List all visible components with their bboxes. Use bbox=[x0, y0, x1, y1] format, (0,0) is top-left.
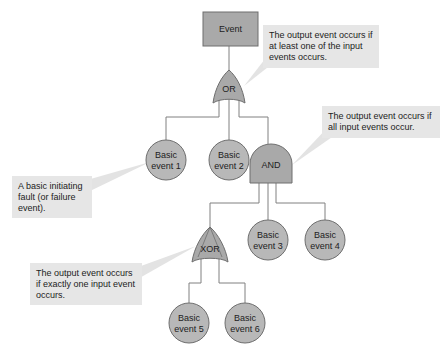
svg-text:Basic: Basic bbox=[257, 230, 280, 240]
basic-event-6: Basic event 6 bbox=[225, 303, 265, 343]
xor-gate-label: XOR bbox=[200, 244, 220, 254]
basic-event-3: Basic event 3 bbox=[248, 220, 288, 260]
svg-text:event 3: event 3 bbox=[253, 241, 283, 251]
svg-text:event 6: event 6 bbox=[230, 324, 260, 334]
svg-text:Basic: Basic bbox=[314, 230, 337, 240]
svg-text:event 2: event 2 bbox=[214, 161, 244, 171]
xor-callout: The output event occurs if exactly one i… bbox=[30, 263, 142, 305]
svg-text:Basic: Basic bbox=[218, 150, 241, 160]
top-event-label: Event bbox=[219, 24, 243, 34]
or-callout: The output event occurs if at least one … bbox=[263, 25, 379, 68]
svg-text:event 1: event 1 bbox=[151, 161, 181, 171]
or-gate: OR bbox=[213, 70, 245, 103]
top-event-box: Event bbox=[203, 12, 258, 46]
svg-text:event 4: event 4 bbox=[310, 241, 340, 251]
svg-text:Basic: Basic bbox=[178, 313, 201, 323]
and-gate: AND bbox=[250, 144, 292, 183]
xor-gate: XOR bbox=[192, 227, 228, 262]
basic-event-4: Basic event 4 bbox=[305, 220, 345, 260]
basic-event-2: Basic event 2 bbox=[209, 140, 249, 180]
and-gate-label: AND bbox=[261, 160, 281, 170]
svg-text:Basic: Basic bbox=[155, 150, 178, 160]
basic-event-5: Basic event 5 bbox=[169, 303, 209, 343]
and-callout: The output event occurs if all input eve… bbox=[322, 106, 440, 138]
svg-text:Basic: Basic bbox=[234, 313, 257, 323]
or-gate-label: OR bbox=[222, 84, 236, 94]
svg-text:event 5: event 5 bbox=[174, 324, 204, 334]
basic-event-callout: A basic initiating fault (or failure eve… bbox=[12, 176, 92, 218]
basic-event-1: Basic event 1 bbox=[146, 140, 186, 180]
